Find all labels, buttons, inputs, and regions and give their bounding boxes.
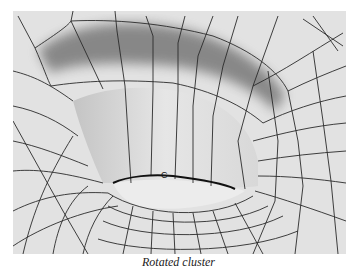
figure-rotated-cluster-mesh: C [13,11,346,254]
figure-caption: Rotated cluster [0,255,357,270]
marker-label-c: C [161,170,168,180]
wireframe-mesh-render: C [13,11,346,254]
